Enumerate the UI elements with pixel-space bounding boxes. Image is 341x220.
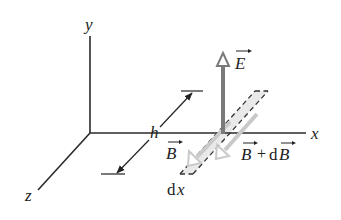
- svg-text:d: d: [167, 180, 176, 199]
- svg-text:x: x: [176, 180, 185, 199]
- diagram-canvas: y x z h E B B + d B d x: [0, 0, 341, 220]
- em-wave-diagram: y x z h E B B + d B d x: [0, 0, 341, 220]
- svg-text:B: B: [279, 145, 290, 164]
- axes: [38, 36, 306, 190]
- B-plus-dB-label: B + d B: [241, 141, 296, 164]
- h-label: h: [150, 123, 159, 142]
- svg-text:+: +: [257, 145, 266, 162]
- z-axis: [38, 133, 90, 190]
- dx-label: d x: [167, 180, 185, 199]
- y-axis-label: y: [83, 15, 93, 34]
- svg-text:B: B: [166, 144, 177, 163]
- x-axis-label: x: [310, 124, 319, 143]
- svg-text:B: B: [241, 145, 252, 164]
- B-label: B: [166, 140, 183, 163]
- z-axis-label: z: [24, 186, 32, 205]
- E-label: E: [234, 49, 252, 73]
- svg-text:E: E: [234, 54, 246, 73]
- svg-text:d: d: [269, 145, 278, 164]
